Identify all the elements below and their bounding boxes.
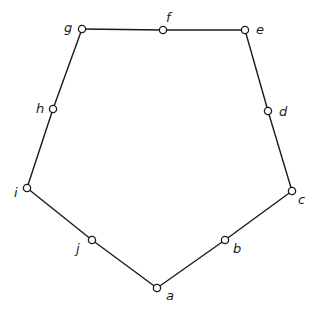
node-label-g: g (64, 20, 72, 35)
node-label-h: h (36, 101, 44, 116)
node-label-i: i (14, 185, 18, 200)
node-label-f: f (166, 10, 173, 25)
edge-a-b (157, 240, 225, 288)
node-a (153, 284, 160, 291)
node-i (23, 184, 30, 191)
edge-f-g (82, 29, 163, 30)
edge-h-i (27, 109, 53, 188)
edge-g-h (53, 29, 82, 109)
node-label-e: e (256, 22, 264, 37)
node-f (159, 26, 166, 33)
node-label-c: c (298, 192, 305, 207)
pentagon-diagram: abcdefghij (0, 0, 315, 314)
node-c (288, 187, 295, 194)
node-d (264, 107, 271, 114)
edges-group (27, 29, 292, 288)
labels-group: abcdefghij (14, 10, 305, 303)
node-g (78, 25, 85, 32)
edge-i-j (27, 188, 92, 240)
node-e (241, 26, 248, 33)
node-j (88, 236, 95, 243)
diagram-canvas: abcdefghij (0, 0, 315, 314)
node-label-b: b (233, 241, 241, 256)
node-label-j: j (74, 241, 80, 256)
node-label-d: d (279, 104, 288, 119)
edge-j-a (92, 240, 157, 288)
edge-d-e (245, 30, 268, 111)
node-h (49, 105, 56, 112)
edge-b-c (225, 191, 292, 240)
edge-c-d (268, 111, 292, 191)
node-b (221, 236, 228, 243)
node-label-a: a (166, 288, 174, 303)
